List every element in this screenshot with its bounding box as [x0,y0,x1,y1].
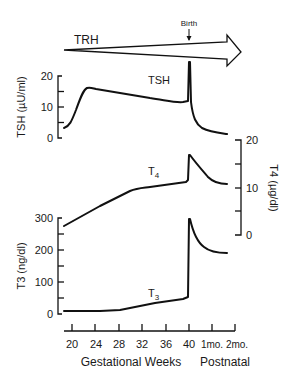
tsh-tick-20: 20 [41,70,53,82]
t3-tick-100: 100 [35,276,53,288]
t3-tick-0: 0 [47,308,53,320]
x-tick-40: 40 [183,338,195,350]
tsh-axis-label: TSH (µU/ml) [15,76,27,137]
x-axis-label-postnatal: Postnatal [200,355,250,369]
x-axis-label-gestational: Gestational Weeks [81,355,182,369]
tsh-curve [64,62,227,134]
x-tick-2mo: 2mo. [226,339,248,350]
t3-curve-label: T3 [148,287,160,302]
x-tick-28: 28 [113,338,125,350]
birth-arrow-icon [187,29,192,41]
t4-tick-10: 10 [246,182,258,194]
t4-curve-label: T4 [148,165,160,180]
t3-tick-300: 300 [35,212,53,224]
tsh-tick-0: 0 [47,132,53,144]
x-tick-32: 32 [136,338,148,350]
t4-axis-label: T4 (µg/dl) [268,164,280,211]
tsh-curve-label: TSH [148,74,170,86]
t4-curve [64,155,227,226]
t4-tick-0: 0 [246,229,252,241]
t3-tick-200: 200 [35,244,53,256]
t3-axis-label: T3 (ng/dl) [15,242,27,289]
t4-curve-label-sub: 4 [155,171,160,180]
x-tick-1mo: 1mo. [201,339,223,350]
t4-tick-20: 20 [246,134,258,146]
x-tick-36: 36 [160,338,172,350]
birth-label: Birth [181,19,197,28]
trh-label: TRH [74,33,99,47]
t4-axis [235,140,241,235]
tsh-axis [58,76,64,138]
x-tick-24: 24 [90,338,102,350]
t3-curve [64,219,227,311]
tsh-tick-10: 10 [41,101,53,113]
t3-curve-label-sub: 3 [155,293,160,302]
thyroid-development-chart: TRH Birth 20 10 0 TSH (µU/ml) TSH 20 10 … [0,0,291,381]
x-axis [64,324,235,331]
x-tick-20: 20 [66,338,78,350]
t3-axis [58,218,64,314]
